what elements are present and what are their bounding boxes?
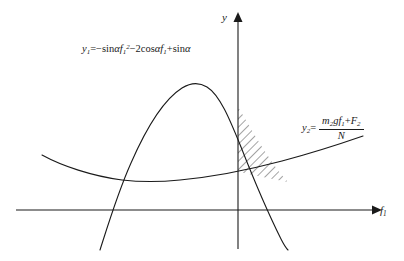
eq2-den-N: N <box>338 130 345 141</box>
y-axis-label: y <box>222 12 227 23</box>
eq2-num-F-subscript: 2 <box>357 120 360 127</box>
eq1-term3-angle: α <box>185 43 191 54</box>
eq2-lhs-group: y2= <box>302 123 316 135</box>
equation-y1: y1=−sinαf12−2cosαf1+sinα <box>82 44 190 56</box>
curve-y2 <box>42 136 363 182</box>
x-axis-label: f1 <box>380 205 387 218</box>
x-axis-label-subscript: 1 <box>383 210 387 218</box>
eq2-fraction: m2gf1+F2N <box>319 116 364 141</box>
eq1-term3-function: sin <box>173 43 185 54</box>
hatched-area-group <box>238 107 288 182</box>
equation-y2: y2=m2gf1+F2N <box>302 116 364 141</box>
eq1-term2-function: cos <box>141 43 155 54</box>
eq2-denominator: N <box>335 130 348 142</box>
eq2-num-m: m <box>322 115 330 126</box>
eq2-equals: = <box>310 122 316 133</box>
y-axis-arrowhead <box>234 12 243 22</box>
hatched-region <box>238 107 288 182</box>
eq2-numerator: m2gf1+F2 <box>319 116 364 130</box>
math-figure: y f1 y1=−sinαf12−2cosαf1+sinα y2=m2gf1+F… <box>0 0 404 261</box>
x-axis-group <box>16 206 382 215</box>
eq1-term1-function: sin <box>102 43 114 54</box>
